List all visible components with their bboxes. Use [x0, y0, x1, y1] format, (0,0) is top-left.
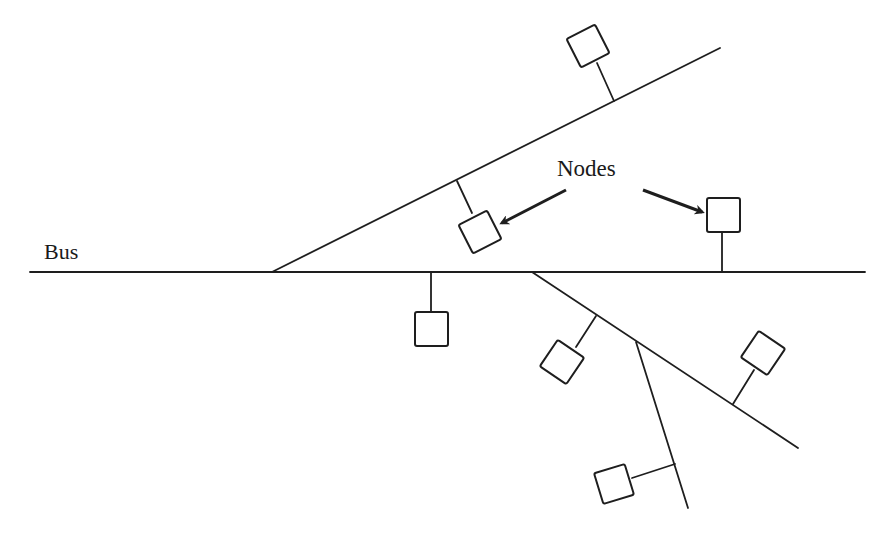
node-sub-branch-bottom	[594, 464, 675, 504]
lower-sub-branch-line	[636, 342, 688, 508]
nodes-label: Nodes	[557, 157, 616, 180]
bus-network-diagram	[0, 0, 889, 540]
node-upper-branch-lower	[457, 181, 502, 254]
node-lower-branch-first	[540, 316, 596, 384]
node-bus-below	[415, 272, 448, 346]
bus-label: Bus	[44, 241, 78, 263]
node-upper-branch-top	[566, 24, 614, 101]
arrow-to-upper-node	[502, 190, 566, 223]
node-bus-right	[707, 198, 740, 272]
node-lower-branch-right	[733, 331, 785, 404]
arrow-to-bus-node	[643, 190, 702, 212]
